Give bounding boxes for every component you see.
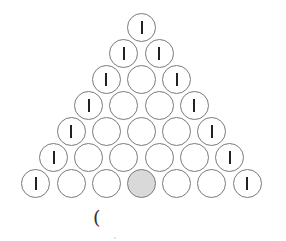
marked-circle — [57, 117, 86, 146]
marked-circle — [109, 39, 138, 68]
empty-circle — [127, 117, 156, 146]
vertical-bar-icon — [246, 177, 248, 190]
empty-circle — [109, 143, 138, 172]
marked-circle — [233, 169, 262, 198]
vertical-bar-icon — [105, 73, 107, 86]
empty-circle — [74, 143, 103, 172]
circle-triangle-diagram — [0, 0, 286, 241]
marked-circle — [127, 13, 156, 42]
empty-circle — [145, 143, 174, 172]
empty-circle — [92, 117, 121, 146]
marked-circle — [162, 65, 191, 94]
empty-circle — [92, 169, 121, 198]
speck — [114, 237, 116, 239]
empty-circle — [197, 169, 226, 198]
empty-circle — [57, 169, 86, 198]
vertical-bar-icon — [141, 21, 143, 34]
marked-circle — [21, 169, 50, 198]
vertical-bar-icon — [35, 177, 37, 190]
vertical-bar-icon — [70, 125, 72, 138]
vertical-bar-icon — [229, 151, 231, 164]
vertical-bar-icon — [158, 47, 160, 60]
marked-circle — [39, 143, 68, 172]
vertical-bar-icon — [176, 73, 178, 86]
empty-circle — [180, 143, 209, 172]
marked-circle — [145, 39, 174, 68]
caption-paren: ( — [93, 206, 100, 228]
empty-circle — [109, 91, 138, 120]
empty-circle — [162, 169, 191, 198]
marked-circle — [180, 91, 209, 120]
marked-circle — [215, 143, 244, 172]
vertical-bar-icon — [193, 99, 195, 112]
marked-circle — [92, 65, 121, 94]
vertical-bar-icon — [123, 47, 125, 60]
vertical-bar-icon — [211, 125, 213, 138]
marked-circle — [197, 117, 226, 146]
marked-circle — [74, 91, 103, 120]
vertical-bar-icon — [53, 151, 55, 164]
empty-circle — [162, 117, 191, 146]
empty-circle — [127, 65, 156, 94]
vertical-bar-icon — [88, 99, 90, 112]
shaded-circle — [127, 169, 156, 198]
empty-circle — [145, 91, 174, 120]
